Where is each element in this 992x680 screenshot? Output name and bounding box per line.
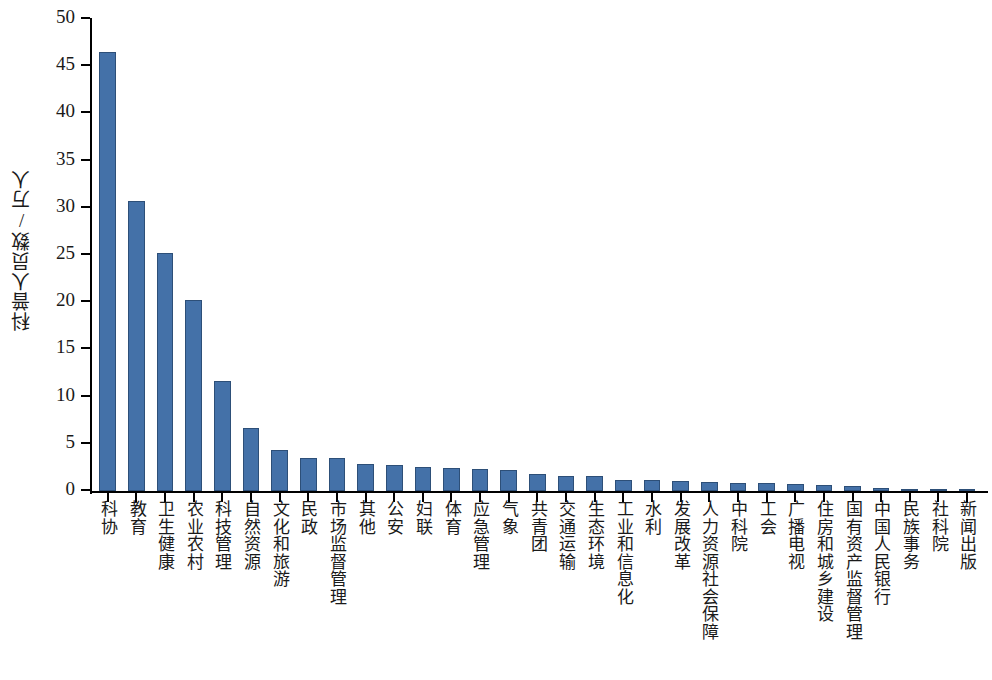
y-axis-tick-label: 20 <box>56 290 75 309</box>
x-axis-label: 社科院 <box>930 500 947 553</box>
bar <box>243 428 260 491</box>
y-axis-title: 科普人员数/万人 <box>4 0 38 500</box>
y-axis-tick: 40 <box>81 111 90 113</box>
bar <box>157 253 174 491</box>
y-axis-tick: 15 <box>81 347 90 349</box>
y-axis-tick-label: 0 <box>66 479 76 498</box>
bar <box>415 467 432 491</box>
plot-area: 05101520253035404550 <box>90 18 988 493</box>
y-axis-tick: 0 <box>81 489 90 491</box>
bar <box>329 458 346 491</box>
x-axis-label: 科协 <box>99 500 116 535</box>
x-axis-label: 交通运输 <box>557 500 574 570</box>
bar <box>816 485 833 491</box>
y-axis-tick: 5 <box>81 442 90 444</box>
y-axis-tick: 10 <box>81 395 90 397</box>
y-axis-tick-label: 45 <box>56 54 75 73</box>
bar <box>128 201 145 491</box>
bar <box>701 482 718 491</box>
bar <box>873 488 890 491</box>
bar <box>615 480 632 491</box>
y-axis-tick-label: 15 <box>56 338 75 357</box>
x-axis-label: 中科院 <box>729 500 746 553</box>
bar <box>386 465 403 491</box>
x-axis-label: 自然资源 <box>242 500 259 570</box>
bar <box>901 489 918 491</box>
bar <box>214 381 231 491</box>
x-axis-label: 新闻出版 <box>958 500 975 570</box>
x-axis-label: 教育 <box>128 500 145 535</box>
x-axis-label: 文化和旅游 <box>271 500 288 588</box>
y-axis-tick-label: 10 <box>56 385 75 404</box>
y-axis-tick-label: 40 <box>56 102 75 121</box>
y-axis-tick: 30 <box>81 206 90 208</box>
x-axis-label: 工业和信息化 <box>615 500 632 605</box>
bar <box>930 489 947 491</box>
bar <box>99 52 116 491</box>
y-axis-title-text: 科普人员数/万人 <box>8 169 35 331</box>
x-axis-label: 民政 <box>300 500 317 535</box>
y-axis-tick: 35 <box>81 159 90 161</box>
x-axis-label: 公安 <box>386 500 403 535</box>
y-axis-tick-label: 5 <box>66 432 76 451</box>
y-axis-tick-label: 35 <box>56 149 75 168</box>
bar <box>844 486 861 491</box>
x-axis-label: 发展改革 <box>672 500 689 570</box>
x-axis-label: 工会 <box>758 500 775 535</box>
bar <box>271 450 288 491</box>
y-axis-tick-label: 30 <box>56 196 75 215</box>
bar <box>586 476 603 491</box>
bar <box>558 476 575 491</box>
bar <box>730 483 747 491</box>
x-axis-label: 科技管理 <box>214 500 231 570</box>
y-axis-tick: 25 <box>81 253 90 255</box>
bar <box>443 468 460 491</box>
x-axis-label: 应急管理 <box>471 500 488 570</box>
x-axis-label: 住房和城乡建设 <box>815 500 832 623</box>
x-axis-label: 卫生健康 <box>156 500 173 570</box>
x-axis-label: 广播电视 <box>787 500 804 570</box>
y-axis-tick: 50 <box>81 17 90 19</box>
x-axis-label: 民族事务 <box>901 500 918 570</box>
x-axis-label: 市场监督管理 <box>328 500 345 605</box>
x-axis-label: 生态环境 <box>586 500 603 570</box>
bar <box>787 484 804 491</box>
x-axis-label: 人力资源社会保障 <box>701 500 718 640</box>
x-axis-label: 其他 <box>357 500 374 535</box>
x-axis-label: 农业农村 <box>185 500 202 570</box>
bar <box>758 483 775 491</box>
bar <box>472 469 489 491</box>
bar <box>529 474 546 491</box>
x-axis-labels: 科协教育卫生健康农业农村科技管理自然资源文化和旅游民政市场监督管理其他公安妇联体… <box>90 500 988 680</box>
x-axis-label: 中国人民银行 <box>872 500 889 605</box>
y-axis-tick-label: 25 <box>56 243 75 262</box>
bar <box>357 464 374 491</box>
y-axis-tick-label: 50 <box>56 7 75 26</box>
bar-chart: 科普人员数/万人 05101520253035404550 科协教育卫生健康农业… <box>0 0 992 680</box>
y-axis-line <box>90 18 92 494</box>
x-axis-label: 水利 <box>643 500 660 535</box>
y-axis-tick: 45 <box>81 64 90 66</box>
x-axis-label: 妇联 <box>414 500 431 535</box>
x-axis-label: 国有资产监督管理 <box>844 500 861 640</box>
bar <box>300 458 317 491</box>
x-axis-label: 共青团 <box>529 500 546 553</box>
bar <box>959 489 976 491</box>
x-axis-label: 气象 <box>500 500 517 535</box>
bar <box>672 481 689 491</box>
bar <box>644 480 661 491</box>
bar <box>185 300 202 491</box>
bar <box>500 470 517 491</box>
y-axis-tick: 20 <box>81 300 90 302</box>
x-axis-label: 体育 <box>443 500 460 535</box>
